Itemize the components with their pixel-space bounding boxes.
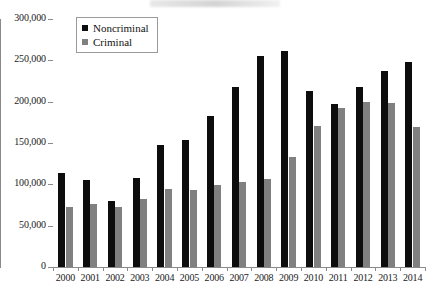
bar-noncriminal-2001 — [83, 180, 90, 267]
bar-criminal-2014 — [413, 127, 420, 267]
legend-item-criminal: Criminal — [82, 35, 149, 49]
bar-noncriminal-2014 — [405, 62, 412, 267]
bar-criminal-2012 — [363, 102, 370, 267]
y-axis-tick-label: 300,000 — [0, 12, 46, 23]
x-axis-line — [53, 267, 425, 268]
bar-criminal-2007 — [239, 182, 246, 267]
chart-legend: Noncriminal Criminal — [76, 17, 158, 53]
bar-noncriminal-2013 — [381, 71, 388, 267]
x-axis-tick — [326, 267, 327, 271]
bar-chart: 050,000100,000150,000200,000250,000300,0… — [0, 0, 430, 288]
y-axis-tick-label: 100,000 — [0, 177, 46, 188]
bar-criminal-2011 — [338, 108, 345, 267]
x-axis-tick — [276, 267, 277, 271]
x-axis-tick — [301, 267, 302, 271]
bar-criminal-2001 — [90, 204, 97, 267]
cropped-title-artifact — [150, 0, 280, 7]
x-axis-tick — [227, 267, 228, 271]
x-axis-tick — [351, 267, 352, 271]
y-axis-tick-label: 150,000 — [0, 136, 46, 147]
bar-noncriminal-2006 — [207, 116, 214, 267]
bar-noncriminal-2008 — [257, 56, 264, 267]
x-axis-tick — [425, 267, 426, 271]
bar-criminal-2005 — [190, 190, 197, 267]
bar-criminal-2008 — [264, 179, 271, 267]
bar-criminal-2009 — [289, 157, 296, 267]
bar-criminal-2013 — [388, 103, 395, 268]
bar-criminal-2004 — [165, 189, 172, 267]
x-axis-tick — [375, 267, 376, 271]
x-axis-tick — [103, 267, 104, 271]
x-axis-tick — [251, 267, 252, 271]
x-axis-tick — [127, 267, 128, 271]
x-axis-tick — [53, 267, 54, 271]
bar-noncriminal-2010 — [306, 91, 313, 267]
bar-noncriminal-2012 — [356, 87, 363, 267]
legend-swatch-noncriminal-icon — [82, 25, 88, 31]
bar-noncriminal-2003 — [133, 178, 140, 267]
x-axis-tick — [152, 267, 153, 271]
bars-layer — [53, 19, 425, 267]
x-axis-tick-label: 2014 — [398, 272, 428, 283]
y-axis-tick-label: 200,000 — [0, 95, 46, 106]
x-axis-tick — [202, 267, 203, 271]
legend-swatch-criminal-icon — [82, 39, 88, 45]
legend-label-noncriminal: Noncriminal — [93, 21, 149, 35]
bar-noncriminal-2002 — [108, 201, 115, 267]
bar-noncriminal-2004 — [157, 145, 164, 267]
bar-noncriminal-2000 — [58, 173, 65, 267]
bar-noncriminal-2009 — [281, 51, 288, 267]
bar-criminal-2006 — [214, 185, 221, 267]
bar-criminal-2000 — [66, 207, 73, 267]
bar-criminal-2002 — [115, 207, 122, 267]
bar-noncriminal-2011 — [331, 104, 338, 267]
bar-criminal-2003 — [140, 199, 147, 267]
x-axis-tick — [177, 267, 178, 271]
bar-noncriminal-2007 — [232, 87, 239, 267]
bar-noncriminal-2005 — [182, 140, 189, 267]
legend-label-criminal: Criminal — [93, 35, 132, 49]
legend-item-noncriminal: Noncriminal — [82, 21, 149, 35]
x-axis-tick — [78, 267, 79, 271]
y-axis-tick-label: 0 — [0, 260, 46, 271]
y-axis-tick-label: 250,000 — [0, 53, 46, 64]
bar-criminal-2010 — [314, 126, 321, 267]
y-axis-tick-label: 50,000 — [0, 219, 46, 230]
x-axis-tick — [400, 267, 401, 271]
